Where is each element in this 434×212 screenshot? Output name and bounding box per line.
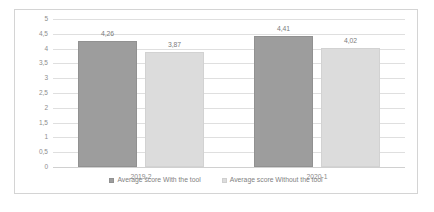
y-axis-tick-label: 1,5 [39,119,48,126]
legend-label: Average score Without the tool [230,177,323,184]
y-axis-tick-label: 0 [44,164,48,171]
bar-value-label: 4,02 [344,38,357,45]
bar-value-label: 4,26 [101,31,114,38]
gridline [53,167,405,168]
legend-swatch-icon [222,178,227,183]
chart-legend: Average score With the toolAverage score… [15,177,417,184]
bar [78,41,137,167]
y-axis-tick-label: 4 [44,45,48,52]
y-axis-tick-label: 3,5 [39,60,48,67]
y-axis-tick-label: 0,5 [39,149,48,156]
bar [254,36,313,167]
y-axis-tick-label: 5 [44,16,48,23]
y-axis-tick-label: 2,5 [39,90,48,97]
gridline [53,19,405,20]
bar [321,48,380,167]
y-axis-tick-label: 4,5 [39,31,48,38]
plot-area: 00,511,522,533,544,55 4,263,874,414,02 [53,19,405,167]
bar-value-label: 4,41 [277,26,290,33]
legend-item[interactable]: Average score With the tool [109,177,200,184]
legend-swatch-icon [109,178,114,183]
bar-value-label: 3,87 [168,42,181,49]
legend-label: Average score With the tool [117,177,200,184]
chart-frame: 00,511,522,533,544,55 4,263,874,414,02 2… [14,9,418,194]
legend-item[interactable]: Average score Without the tool [222,177,323,184]
y-axis-tick-label: 3 [44,75,48,82]
y-axis-tick-label: 2 [44,105,48,112]
y-axis-tick-label: 1 [44,134,48,141]
bar [145,52,204,167]
